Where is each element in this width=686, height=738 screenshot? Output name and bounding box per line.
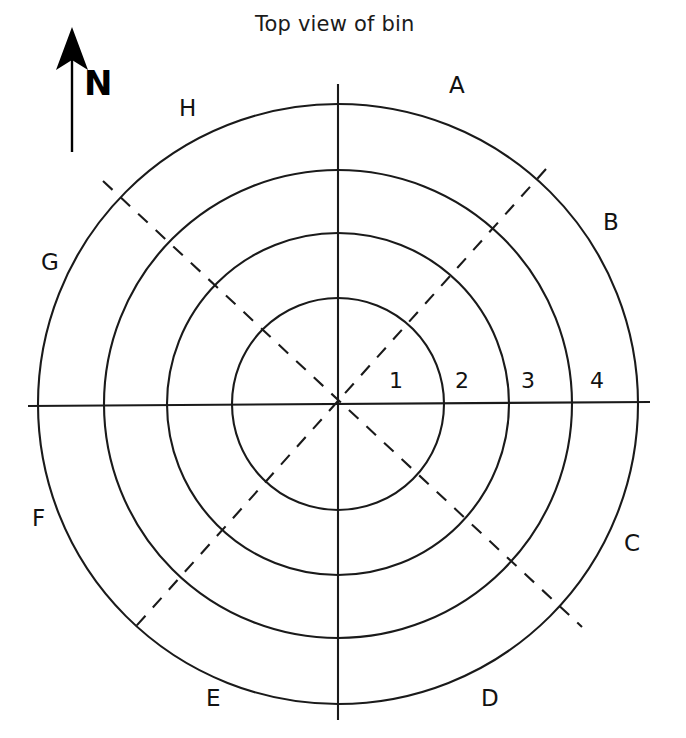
sector-label-b: B <box>603 211 619 234</box>
page-title: Top view of bin <box>255 14 415 35</box>
ring-label-1: 1 <box>389 370 403 392</box>
north-label: N <box>84 66 112 100</box>
sector-label-c: C <box>624 532 640 555</box>
sector-label-f: F <box>32 507 45 530</box>
figure-canvas: Top view of bin N A B C D E F G H 1 2 3 … <box>0 0 686 738</box>
ring-label-3: 3 <box>521 370 535 392</box>
ring-label-4: 4 <box>590 370 604 392</box>
sector-label-e: E <box>206 687 221 710</box>
bin-top-view-diagram <box>0 0 686 738</box>
sector-label-g: G <box>41 251 59 274</box>
sector-label-a: A <box>449 74 465 97</box>
ring-label-2: 2 <box>455 370 469 392</box>
sector-label-h: H <box>179 97 196 120</box>
sector-label-d: D <box>481 687 499 710</box>
